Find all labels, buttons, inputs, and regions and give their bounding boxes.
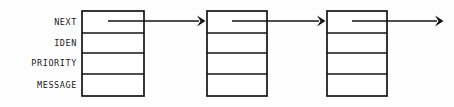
field-label-iden: IDEN [54,38,77,48]
list-node-2 [207,11,267,96]
field-label-priority: PRIORITY [31,58,77,68]
list-node-1 [82,11,144,96]
list-node-3 [327,11,387,96]
field-label-column: NEXT IDEN PRIORITY MESSAGE [31,17,77,90]
linked-list-diagram: NEXT IDEN PRIORITY MESSAGE [0,0,454,107]
field-label-next: NEXT [54,17,77,27]
diagram-canvas: NEXT IDEN PRIORITY MESSAGE [0,0,454,107]
field-label-message: MESSAGE [37,80,77,90]
